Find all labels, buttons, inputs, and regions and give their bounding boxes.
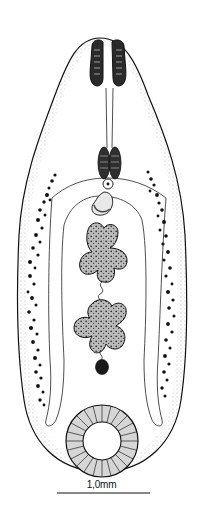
scale-bar-label: 1,0mm (0, 479, 203, 490)
ventral-sucker (66, 405, 138, 477)
ovary (96, 360, 109, 375)
genital-pore (103, 179, 113, 189)
trematode-illustration (0, 0, 203, 515)
